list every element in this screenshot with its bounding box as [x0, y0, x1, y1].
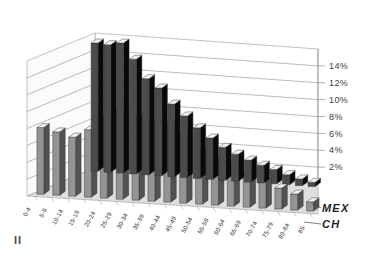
bar-side: [175, 100, 181, 177]
bar-side: [60, 128, 66, 195]
bar-side: [162, 84, 168, 176]
bar-front: [91, 43, 98, 171]
bar-mex: [117, 39, 129, 173]
bar-front: [244, 160, 251, 182]
bar-side: [238, 150, 244, 181]
bar-side: [282, 184, 288, 209]
bar-front: [257, 165, 264, 183]
category-tick: [116, 202, 119, 206]
category-tick: [181, 206, 184, 210]
bar-side: [136, 55, 142, 174]
series-leader-line: [304, 222, 321, 224]
value-axis: 2%4%6%8%10%12%14%: [318, 61, 348, 172]
bar-front: [53, 132, 60, 195]
category-label: 85-: [296, 223, 307, 235]
bar-side: [111, 41, 117, 172]
bar-front: [117, 43, 124, 173]
category-tick: [84, 200, 87, 204]
category-label: 60-64: [212, 217, 226, 235]
category-tick: [229, 209, 232, 213]
category-label: 70-74: [244, 219, 258, 237]
bar-mex: [104, 41, 116, 172]
bar-mex: [180, 112, 192, 178]
bar-mex: [193, 124, 205, 179]
bar-side: [251, 156, 257, 182]
bar-ch: [53, 128, 65, 195]
bar-ch: [37, 124, 49, 195]
bar-front: [308, 182, 315, 186]
category-tick: [132, 203, 135, 207]
bar-mex: [91, 39, 103, 171]
bar-front: [155, 88, 162, 176]
plot-area: 2%4%6%8%10%12%14%0-45-910-1415-1920-2425…: [21, 33, 349, 240]
category-label: 40-44: [147, 213, 161, 231]
chart-3d-column: 2%4%6%8%10%12%14%0-45-910-1415-1920-2425…: [0, 0, 368, 264]
category-tick: [35, 197, 38, 201]
bar-front: [295, 179, 302, 186]
bar-ch: [291, 190, 303, 210]
category-tick: [245, 210, 248, 214]
category-tick: [67, 199, 70, 203]
bar-front: [142, 79, 149, 175]
bar-ch: [275, 184, 287, 209]
category-label: 0-4: [21, 205, 32, 217]
bar-side: [76, 133, 82, 196]
bar-front: [180, 116, 187, 178]
category-label: 10-14: [50, 207, 64, 225]
category-tick: [164, 205, 167, 209]
category-tick: [294, 213, 297, 217]
axis-tick-label: 6%: [329, 129, 343, 139]
bar-mex: [129, 55, 141, 174]
bar-side: [187, 112, 193, 178]
bar-mex: [257, 161, 269, 183]
category-label: 20-24: [83, 209, 97, 227]
axis-tick-label: 12%: [329, 78, 348, 88]
bar-front: [104, 45, 111, 172]
bar-side: [226, 143, 232, 180]
bar-front: [206, 138, 213, 179]
category-tick: [197, 207, 200, 211]
bar-side: [149, 75, 155, 175]
category-label: 75-79: [260, 220, 274, 238]
category-tick: [100, 201, 103, 205]
bar-front: [283, 175, 290, 185]
chart-canvas: 2%4%6%8%10%12%14%0-45-910-1415-1920-2425…: [0, 0, 368, 264]
category-tick: [310, 214, 313, 218]
bar-mex: [142, 75, 154, 175]
axis-tick-label: 2%: [329, 162, 343, 172]
category-label: 30-34: [115, 211, 129, 229]
bar-side: [98, 39, 104, 171]
category-label: 55-59: [196, 216, 210, 234]
axis-tick-label: 14%: [329, 61, 348, 71]
series-label-ch: CH: [322, 218, 340, 230]
figure-marker: II: [14, 235, 22, 246]
bar-front: [85, 130, 92, 198]
axis-tick-label: 8%: [329, 112, 343, 122]
bar-front: [275, 188, 282, 209]
bar-mex: [219, 143, 231, 180]
bar-mex: [232, 150, 244, 181]
bar-front: [259, 180, 266, 208]
axis-tick-label: 10%: [329, 95, 348, 105]
bar-ch: [69, 133, 81, 196]
bar-mex: [168, 100, 180, 177]
category-tick: [51, 198, 54, 202]
category-label: 65-69: [228, 218, 242, 236]
category-label: 50-54: [180, 215, 194, 233]
category-label: 35-39: [131, 212, 145, 230]
category-tick: [213, 208, 216, 212]
bar-side: [200, 124, 206, 179]
category-tick: [148, 204, 151, 208]
bar-mex: [270, 166, 282, 184]
category-label: 15-19: [66, 208, 80, 226]
category-label: 80-84: [277, 221, 291, 239]
bar-mex: [244, 156, 256, 182]
bar-front: [129, 59, 136, 174]
bar-side: [124, 39, 130, 173]
category-tick: [261, 211, 264, 215]
bar-side: [213, 134, 219, 179]
category-tick: [278, 212, 281, 216]
bar-front: [232, 154, 239, 181]
series-label-mex: MEX: [322, 202, 349, 214]
bar-front: [168, 104, 175, 177]
